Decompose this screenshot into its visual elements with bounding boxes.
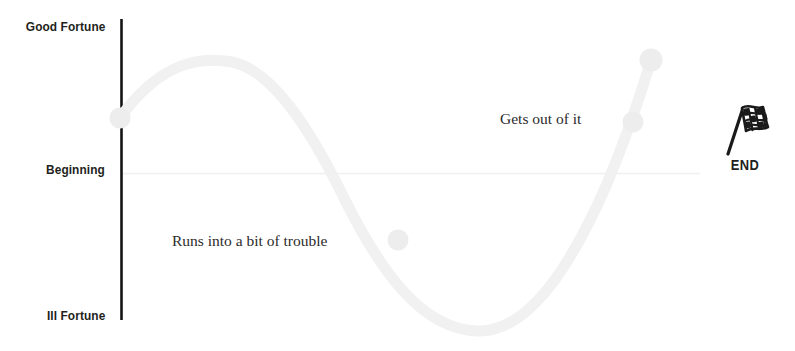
annotation-gets-out-of-it: Gets out of it [500,110,581,128]
axis-label-beginning: Beginning [46,162,105,177]
checkered-flag-icon [718,100,774,156]
chart-canvas: Good Fortune Beginning Ill Fortune Runs … [0,0,795,351]
data-point-trouble [388,230,409,251]
annotation-runs-into-trouble: Runs into a bit of trouble [172,232,327,250]
end-marker: END [714,100,782,180]
story-arc-curve [120,60,651,331]
data-point-end [640,49,663,72]
data-point-gets-out [623,112,644,133]
story-arc-plot [0,0,795,351]
axis-label-ill-fortune: Ill Fortune [47,308,105,323]
end-label: END [718,156,771,173]
data-point-start [110,108,131,129]
axis-label-good-fortune: Good Fortune [25,19,105,34]
